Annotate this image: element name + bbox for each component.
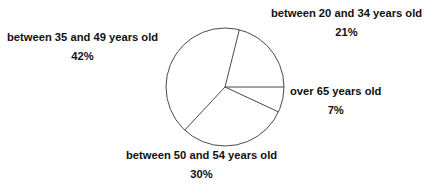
pie-label-age-35-49-name: between 35 and 49 years old bbox=[7, 32, 158, 44]
pie-label-age-over-65: over 65 years old 7% bbox=[290, 86, 381, 117]
pie-chart-figure: between 20 and 34 years old 21% between … bbox=[0, 0, 445, 193]
pie-label-age-over-65-percent: 7% bbox=[290, 105, 381, 117]
pie-label-age-35-49: between 35 and 49 years old 42% bbox=[7, 32, 158, 63]
pie-label-age-over-65-name: over 65 years old bbox=[290, 86, 381, 98]
pie-label-age-50-54-name: between 50 and 54 years old bbox=[126, 150, 277, 162]
pie-label-age-35-49-percent: 42% bbox=[7, 51, 158, 63]
pie-label-age-20-34-name: between 20 and 34 years old bbox=[271, 8, 422, 20]
pie-label-age-20-34: between 20 and 34 years old 21% bbox=[271, 8, 422, 39]
pie-label-age-50-54: between 50 and 54 years old 30% bbox=[126, 150, 277, 181]
pie-label-age-50-54-percent: 30% bbox=[126, 169, 277, 181]
pie-label-age-20-34-percent: 21% bbox=[271, 27, 422, 39]
